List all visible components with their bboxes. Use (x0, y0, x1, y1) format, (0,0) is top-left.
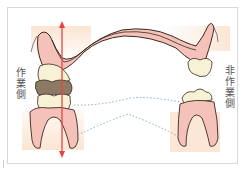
non-working-upper-tooth (188, 58, 212, 76)
lower-jaw-dotted-outline (74, 98, 180, 137)
working-contact-area (35, 80, 72, 96)
working-side-label: 作業側 (14, 67, 25, 100)
non-working-side-label: 非作業側 (223, 65, 234, 109)
dental-diagram (0, 0, 245, 170)
